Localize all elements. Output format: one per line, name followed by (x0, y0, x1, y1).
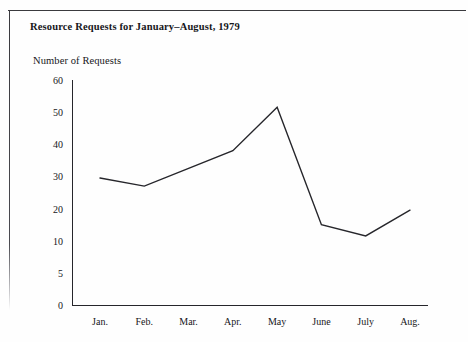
x-tick-label-june: June (312, 316, 330, 327)
x-tick-label-july: July (357, 316, 374, 327)
chart-title: Resource Requests for January–August, 19… (30, 21, 240, 32)
x-tick-label-may: May (268, 316, 286, 327)
y-tick-label-40: 40 (53, 139, 63, 150)
y-tick-label-5: 5 (58, 267, 63, 278)
page-frame-top-rule (8, 10, 466, 11)
y-tick-label-0: 0 (58, 300, 63, 311)
page-frame-left-rule (9, 10, 10, 310)
y-tick-label-30: 30 (53, 171, 63, 182)
x-tick-label-aug: Aug. (400, 316, 420, 327)
y-tick-label-50: 50 (53, 107, 63, 118)
y-axis-label: Number of Requests (33, 55, 121, 66)
line-series-requests (72, 80, 428, 306)
x-tick-label-jan: Jan. (92, 316, 108, 327)
y-tick-label-10: 10 (53, 235, 63, 246)
y-tick-label-20: 20 (53, 203, 63, 214)
x-tick-label-mar: Mar. (179, 316, 198, 327)
plot-area: 05102030405060 Jan.Feb.Mar.Apr.MayJuneJu… (72, 80, 427, 305)
x-tick-label-apr: Apr. (224, 316, 242, 327)
x-tick-label-feb: Feb. (136, 316, 154, 327)
y-tick-label-60: 60 (53, 75, 63, 86)
figure-page: Resource Requests for January–August, 19… (0, 0, 468, 342)
